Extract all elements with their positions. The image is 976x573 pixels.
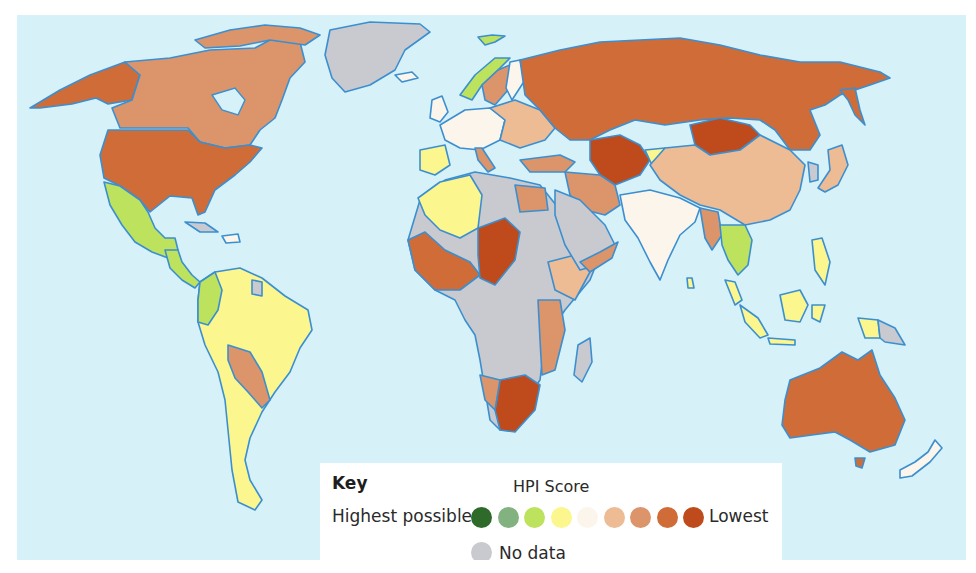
- legend-no-data-label: No data: [499, 543, 566, 561]
- world-map-panel: Key HPI Score Highest possible Lowest No…: [17, 15, 966, 560]
- region-central-america: [165, 250, 200, 288]
- legend-swatch-6: [604, 507, 625, 528]
- region-australia: [782, 350, 905, 452]
- legend-scale-title: HPI Score: [513, 477, 589, 496]
- legend-swatch-3: [524, 507, 545, 528]
- region-sulawesi: [812, 305, 825, 322]
- legend-swatch-5: [577, 507, 598, 528]
- region-alaska: [30, 62, 140, 108]
- region-papua-indonesia: [858, 318, 880, 338]
- region-turkey: [520, 155, 575, 172]
- region-cuba: [185, 222, 218, 232]
- region-sumatra: [740, 305, 768, 338]
- legend-panel: Key HPI Score Highest possible Lowest No…: [320, 463, 782, 560]
- region-tasmania: [855, 458, 865, 468]
- region-india: [620, 190, 700, 280]
- region-tanzania-mozambique: [538, 300, 565, 375]
- region-uk: [430, 96, 448, 122]
- legend-low-label: Lowest: [709, 506, 768, 526]
- legend-swatch-7: [630, 507, 651, 528]
- legend-key-title: Key: [332, 473, 368, 493]
- legend-swatch-8: [657, 507, 678, 528]
- region-japan: [818, 145, 848, 192]
- region-kamchatka: [840, 88, 865, 125]
- region-southern-africa: [495, 375, 540, 432]
- region-myanmar: [700, 208, 722, 250]
- region-java: [768, 338, 795, 345]
- region-svalbard: [478, 35, 505, 45]
- region-malaysia: [725, 280, 742, 305]
- region-korea: [808, 162, 818, 182]
- region-sri-lanka: [687, 278, 694, 288]
- legend-color-scale: [471, 507, 704, 529]
- region-guianas: [252, 280, 262, 296]
- region-italy: [475, 148, 495, 172]
- region-hispaniola: [222, 234, 240, 243]
- region-canada-islands: [195, 25, 320, 48]
- legend-swatch-4: [551, 507, 572, 528]
- legend-swatch-2: [498, 507, 519, 528]
- region-philippines: [812, 238, 830, 285]
- region-egypt: [515, 185, 548, 212]
- legend-swatch-1: [471, 507, 492, 528]
- region-iberia: [420, 145, 450, 175]
- legend-no-data: No data: [471, 542, 566, 560]
- legend-swatch-9: [683, 507, 704, 528]
- legend-swatch-no-data: [471, 542, 492, 560]
- region-iceland: [395, 72, 418, 82]
- region-western-europe: [440, 108, 505, 150]
- region-greenland: [325, 22, 430, 92]
- region-new-zealand: [900, 440, 942, 478]
- region-madagascar: [574, 338, 592, 382]
- legend-high-label: Highest possible: [332, 506, 472, 526]
- region-borneo: [780, 290, 808, 322]
- region-southeast-asia: [720, 225, 752, 275]
- region-papua-new-guinea: [878, 320, 905, 345]
